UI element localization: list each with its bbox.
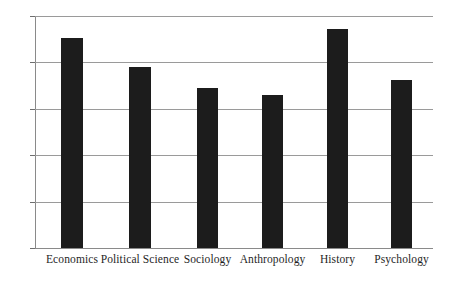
gridline-y-0.5 — [35, 202, 433, 203]
gridline-y-1 — [35, 155, 433, 156]
bar-psychology — [391, 80, 412, 248]
y-tick-mark-0.5 — [30, 202, 35, 203]
x-axis-label-psychology: Psychology — [374, 251, 429, 267]
bar-political-science — [129, 67, 151, 248]
y-tick-mark-0 — [30, 248, 35, 249]
x-axis-labels: EconomicsPolitical ScienceSociologyAnthr… — [0, 251, 449, 273]
plot-area: 00.511.522.5 — [35, 16, 433, 248]
gridline-y-1.5 — [35, 109, 433, 110]
x-axis-label-political-science: Political Science — [101, 251, 180, 267]
y-tick-mark-2.5 — [30, 16, 35, 17]
gridline-y-2 — [35, 62, 433, 63]
gridline-y-0 — [35, 248, 433, 249]
y-tick-mark-1.5 — [30, 109, 35, 110]
y-tick-mark-2 — [30, 62, 35, 63]
bar-sociology — [197, 88, 218, 248]
bar-anthropology — [262, 95, 283, 248]
gridline-y-2.5 — [35, 16, 433, 17]
bar-chart: 00.511.522.5 EconomicsPolitical ScienceS… — [0, 0, 449, 285]
x-axis-label-anthropology: Anthropology — [240, 251, 306, 267]
x-axis-label-sociology: Sociology — [184, 251, 232, 267]
bar-economics — [61, 38, 83, 248]
bar-history — [327, 29, 348, 248]
x-axis-label-economics: Economics — [46, 251, 98, 267]
x-axis-label-history: History — [320, 251, 355, 267]
y-tick-mark-1 — [30, 155, 35, 156]
